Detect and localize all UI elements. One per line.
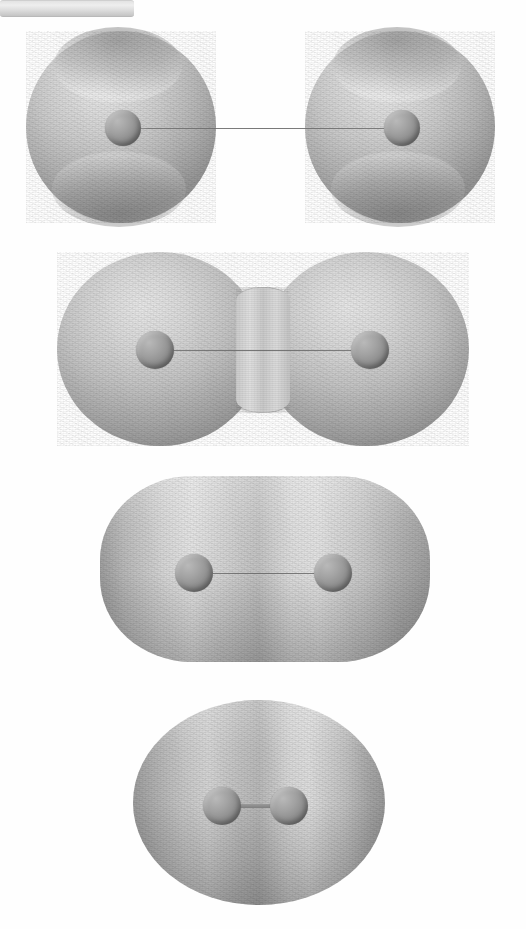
atom-left-panel-b — [136, 331, 174, 369]
panel-d-ellipsoid — [0, 694, 526, 929]
atom-left-panel-a — [105, 110, 141, 146]
electron-density-figure — [0, 0, 526, 929]
surface-texture-panel-d — [133, 700, 385, 905]
surface-grain-panel-c — [100, 476, 430, 662]
vertical-shading-panel-c — [100, 476, 430, 662]
surface-grain-panel-d — [133, 700, 385, 905]
atom-right-panel-a — [384, 110, 420, 146]
atom-right-panel-b — [351, 331, 389, 369]
isosurface-body-panel-d — [133, 700, 385, 905]
polar-dimple-bottom-right-a — [331, 151, 465, 227]
atom-right-panel-c — [314, 554, 352, 592]
surface-texture-panel-c — [100, 476, 430, 662]
panel-b-peanut — [0, 248, 526, 454]
bond-stub-panel-d — [238, 804, 274, 808]
polar-dimple-top-right-a — [333, 27, 461, 103]
bond-axis-hairline-panel-b — [150, 350, 378, 351]
polar-dimple-bottom-left-a — [52, 151, 186, 227]
atom-right-panel-d — [270, 787, 308, 825]
vertical-shading-panel-d — [133, 700, 385, 905]
isosurface-body-panel-c — [100, 476, 430, 662]
atom-left-panel-c — [175, 554, 213, 592]
polar-dimple-top-left-a — [54, 27, 182, 103]
panel-a-separated-spheres — [0, 0, 526, 236]
atom-left-panel-d — [203, 787, 241, 825]
bond-cylinder-panel-a — [0, 0, 134, 17]
bond-axis-hairline-panel-a — [120, 128, 410, 129]
panel-c-stadium — [0, 470, 526, 670]
